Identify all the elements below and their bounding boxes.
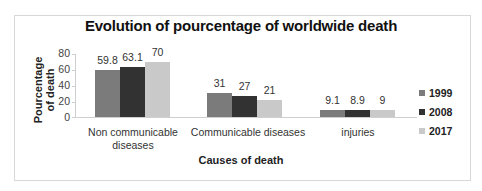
y-axis-label-line-1: Pourcentage [32, 57, 44, 124]
y-tick-20: 20 [48, 95, 70, 107]
bar-2008-1 [232, 96, 257, 117]
legend-item-1999: 1999 [419, 87, 452, 99]
legend-swatch-2017 [419, 128, 425, 134]
category-label-communicable: Communicable diseases [188, 126, 308, 139]
y-tick-0: 0 [48, 111, 70, 123]
y-tick-60: 60 [48, 63, 70, 75]
category-label-line: Communicable diseases [188, 126, 308, 139]
bar-2008-2 [345, 110, 370, 117]
legend-label: 2008 [429, 106, 452, 118]
y-axis-line [75, 54, 76, 118]
bar-1999-2 [320, 110, 345, 117]
category-label-non-communicable: Non communicable diseases [78, 126, 188, 152]
legend-swatch-1999 [419, 90, 425, 96]
y-tick-80: 80 [48, 47, 70, 59]
x-axis-label: Causes of death [0, 154, 482, 166]
bar-2017-0 [145, 62, 170, 117]
legend-label: 2017 [429, 125, 452, 137]
category-label-line: Non communicable [78, 126, 188, 139]
bar-1999-0 [95, 70, 120, 117]
category-label-line: injuries [318, 126, 398, 139]
chart-title: Evolution of pourcentage of worldwide de… [0, 17, 482, 34]
bar-1999-1 [207, 93, 232, 117]
legend-label: 1999 [429, 87, 452, 99]
data-label: 21 [255, 84, 285, 96]
legend-swatch-2008 [419, 109, 425, 115]
category-label-line: diseases [78, 139, 188, 152]
x-axis-line [75, 117, 417, 118]
legend-item-2008: 2008 [419, 106, 452, 118]
y-tick-40: 40 [48, 79, 70, 91]
bar-2017-1 [257, 100, 282, 117]
category-label-injuries: injuries [318, 126, 398, 139]
data-label: 70 [143, 46, 173, 58]
data-label: 9 [368, 94, 398, 106]
bar-2017-2 [370, 110, 395, 117]
legend-item-2017: 2017 [419, 125, 452, 137]
bar-2008-0 [120, 67, 145, 117]
